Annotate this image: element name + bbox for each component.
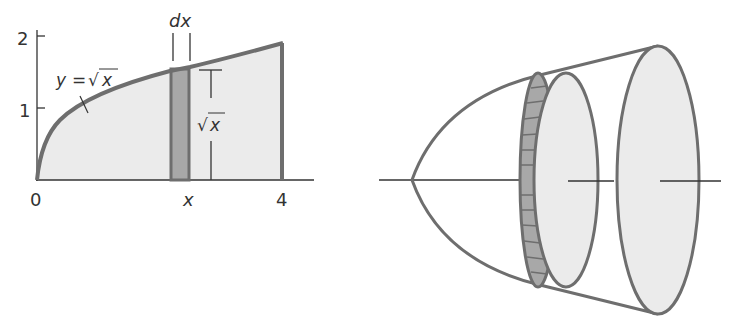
y-tick-label-2: 2 (17, 28, 28, 49)
x-tick-label-0: 0 (30, 189, 41, 210)
strip-dx (171, 69, 189, 180)
solid-of-revolution (379, 46, 721, 314)
svg-text:y: y (55, 70, 67, 90)
svg-text:=: = (72, 70, 86, 90)
region-under-curve (37, 44, 282, 180)
curve-label: y = √ x (55, 69, 118, 90)
x-tick-label-4: 4 (276, 189, 287, 210)
dx-label: dx (169, 10, 191, 31)
svg-text:√: √ (197, 115, 208, 135)
disk-face (534, 73, 598, 287)
area-plot: 2 1 0 x 4 dx y = √ x √ x (17, 10, 314, 210)
x-tick-label-x: x (182, 189, 194, 210)
end-face (617, 46, 699, 314)
svg-text:x: x (101, 70, 113, 90)
svg-text:x: x (209, 115, 221, 135)
figure-canvas: 2 1 0 x 4 dx y = √ x √ x (0, 0, 737, 324)
svg-text:√: √ (88, 70, 99, 90)
y-tick-label-1: 1 (19, 100, 30, 121)
